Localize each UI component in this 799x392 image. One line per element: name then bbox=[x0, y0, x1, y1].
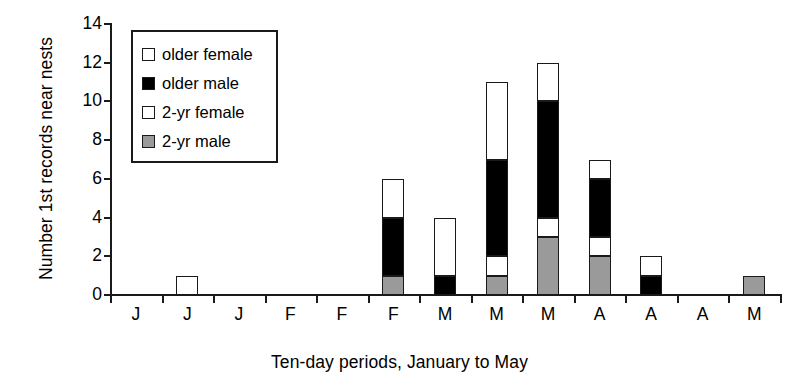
legend-label: 2-yr female bbox=[162, 104, 245, 121]
bar-segment[interactable] bbox=[589, 256, 611, 295]
bar-stack[interactable] bbox=[434, 218, 456, 295]
y-tick-label: 10 bbox=[83, 93, 102, 111]
y-tick-label: 14 bbox=[83, 15, 102, 33]
bar-segment[interactable] bbox=[743, 276, 765, 295]
bar-segment[interactable] bbox=[382, 276, 404, 295]
legend-item: older female bbox=[142, 43, 253, 65]
stacked-bar-chart: Number 1st records near nests 0246810121… bbox=[0, 0, 799, 392]
bar-segment[interactable] bbox=[537, 218, 559, 237]
x-tick-mark bbox=[368, 296, 370, 303]
bar-segment[interactable] bbox=[434, 218, 456, 276]
bar-stack[interactable] bbox=[176, 276, 198, 295]
x-tick-label: J bbox=[234, 306, 243, 324]
x-tick-label: F bbox=[285, 306, 296, 324]
x-axis-title: Ten-day periods, January to May bbox=[0, 352, 799, 373]
y-tick-label: 12 bbox=[83, 54, 102, 72]
x-tick-label: F bbox=[388, 306, 399, 324]
bar-stack[interactable] bbox=[382, 179, 404, 295]
legend-item: older male bbox=[142, 72, 239, 94]
x-axis-tick-labels: JJJFFFMMMAAAM bbox=[0, 306, 799, 332]
x-tick-label: A bbox=[697, 306, 709, 324]
bar-segment[interactable] bbox=[486, 82, 508, 159]
bar-stack[interactable] bbox=[589, 160, 611, 296]
y-axis-tick-labels: 02468101214 bbox=[52, 24, 102, 295]
y-tick-label: 4 bbox=[92, 209, 102, 227]
bar-segment[interactable] bbox=[589, 179, 611, 237]
x-tick-label: M bbox=[747, 306, 762, 324]
chart-legend: older femaleolder male2-yr female2-yr ma… bbox=[131, 30, 278, 163]
x-tick-label: M bbox=[438, 306, 453, 324]
x-tick-label: M bbox=[541, 306, 556, 324]
bar-segment[interactable] bbox=[537, 101, 559, 217]
bar-stack[interactable] bbox=[486, 82, 508, 295]
legend-label: older female bbox=[162, 46, 253, 63]
bar-segment[interactable] bbox=[589, 237, 611, 256]
legend-swatch-icon bbox=[142, 135, 155, 148]
x-tick-mark bbox=[162, 296, 164, 303]
x-tick-mark bbox=[213, 296, 215, 303]
y-tick-label: 6 bbox=[92, 170, 102, 188]
bar-segment[interactable] bbox=[176, 276, 198, 295]
x-tick-label: M bbox=[489, 306, 504, 324]
legend-swatch-icon bbox=[142, 48, 155, 61]
bar-segment[interactable] bbox=[486, 160, 508, 257]
bar-segment[interactable] bbox=[382, 218, 404, 276]
bar-segment[interactable] bbox=[486, 256, 508, 275]
bar-segment[interactable] bbox=[382, 179, 404, 218]
x-tick-mark bbox=[110, 296, 112, 303]
bar-segment[interactable] bbox=[434, 276, 456, 295]
x-tick-mark bbox=[522, 296, 524, 303]
y-tick-label: 0 bbox=[92, 286, 102, 304]
x-tick-mark bbox=[677, 296, 679, 303]
x-tick-mark bbox=[419, 296, 421, 303]
bar-stack[interactable] bbox=[743, 276, 765, 295]
y-tick-mark bbox=[104, 217, 111, 219]
bar-stack[interactable] bbox=[537, 63, 559, 295]
y-tick-mark bbox=[104, 62, 111, 64]
x-tick-mark bbox=[625, 296, 627, 303]
x-tick-label: J bbox=[183, 306, 192, 324]
bar-segment[interactable] bbox=[537, 237, 559, 295]
x-tick-label: A bbox=[594, 306, 606, 324]
x-tick-mark bbox=[265, 296, 267, 303]
x-tick-mark bbox=[574, 296, 576, 303]
x-tick-mark bbox=[780, 296, 782, 303]
x-tick-mark bbox=[471, 296, 473, 303]
bar-segment[interactable] bbox=[537, 63, 559, 102]
bar-segment[interactable] bbox=[589, 160, 611, 179]
x-tick-label: J bbox=[131, 306, 140, 324]
y-tick-mark bbox=[104, 139, 111, 141]
y-tick-label: 8 bbox=[92, 131, 102, 149]
legend-item: 2-yr male bbox=[142, 130, 231, 152]
x-tick-mark bbox=[728, 296, 730, 303]
x-tick-label: F bbox=[337, 306, 348, 324]
y-tick-mark bbox=[104, 23, 111, 25]
legend-swatch-icon bbox=[142, 106, 155, 119]
bar-segment[interactable] bbox=[640, 276, 662, 295]
legend-label: older male bbox=[162, 75, 239, 92]
legend-item: 2-yr female bbox=[142, 101, 245, 123]
bar-segment[interactable] bbox=[486, 276, 508, 295]
bar-segment[interactable] bbox=[640, 256, 662, 275]
x-tick-mark bbox=[316, 296, 318, 303]
legend-swatch-icon bbox=[142, 77, 155, 90]
legend-label: 2-yr male bbox=[162, 133, 231, 150]
y-tick-mark bbox=[104, 100, 111, 102]
y-tick-mark bbox=[104, 294, 111, 296]
y-tick-label: 2 bbox=[92, 248, 102, 266]
x-tick-label: A bbox=[645, 306, 657, 324]
y-tick-mark bbox=[104, 178, 111, 180]
y-tick-mark bbox=[104, 255, 111, 257]
bar-stack[interactable] bbox=[640, 256, 662, 295]
